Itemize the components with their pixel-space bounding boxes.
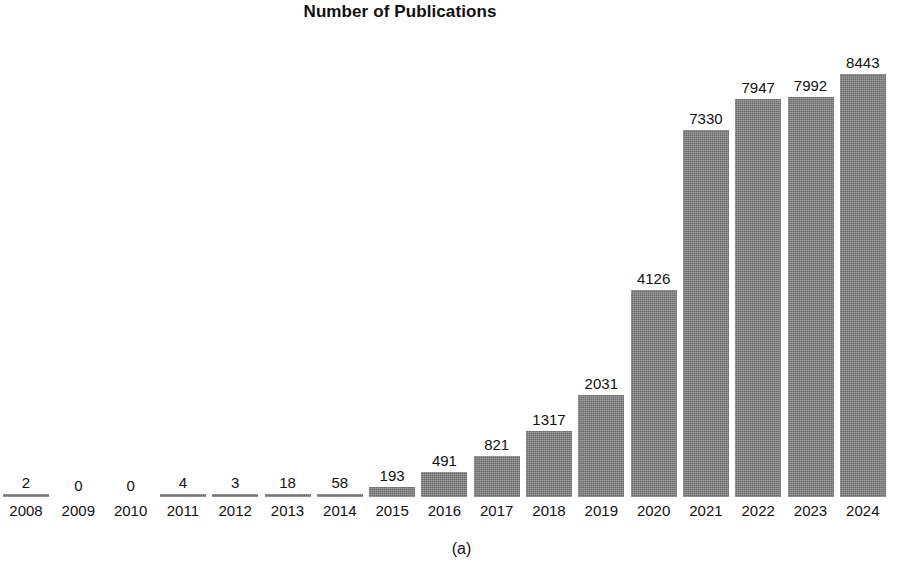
bar [683,130,729,497]
bar [840,74,886,497]
bar-value-label: 4 [157,474,209,491]
bar-group: 18 [262,0,314,500]
x-tick-label-2019: 2019 [575,502,627,519]
x-axis: 2008200920102011201220132014201520162017… [0,500,923,526]
bar-value-label: 1317 [523,411,575,428]
bar-value-label: 7947 [732,79,784,96]
bar-chart-plot-area: 2004318581934918211317203141267330794779… [0,0,923,500]
bar [212,494,258,497]
figure-caption: (a) [0,540,923,558]
bar-value-label: 821 [471,436,523,453]
bar [631,290,677,497]
x-tick-label-2021: 2021 [680,502,732,519]
bar-value-label: 0 [52,477,104,494]
bar [3,494,49,497]
figure-panel-a: Number of Publications 20043185819349182… [0,0,923,577]
x-tick-label-2011: 2011 [157,502,209,519]
bar-group: 821 [471,0,523,500]
bar-group: 193 [366,0,418,500]
bar [265,494,311,497]
bar-group: 4126 [628,0,680,500]
bar [160,494,206,497]
x-tick-label-2022: 2022 [732,502,784,519]
bar [578,395,624,497]
bar [526,431,572,497]
bar-value-label: 58 [314,474,366,491]
bar-group: 2031 [575,0,627,500]
bar [317,494,363,497]
bar-value-label: 193 [366,467,418,484]
x-tick-label-2020: 2020 [628,502,680,519]
bar-value-label: 2 [0,474,52,491]
bar-group: 7330 [680,0,732,500]
bar-group: 7947 [732,0,784,500]
bar-value-label: 7330 [680,110,732,127]
x-tick-label-2009: 2009 [52,502,104,519]
bar [369,487,415,497]
x-tick-label-2010: 2010 [105,502,157,519]
bar-value-label: 3 [209,474,261,491]
x-tick-label-2017: 2017 [471,502,523,519]
bar-value-label: 4126 [628,270,680,287]
bar-value-label: 0 [105,477,157,494]
x-tick-label-2023: 2023 [785,502,837,519]
x-tick-label-2016: 2016 [418,502,470,519]
x-tick-label-2015: 2015 [366,502,418,519]
bar-group: 7992 [785,0,837,500]
bar-group: 0 [105,0,157,500]
bar [474,456,520,497]
bar-value-label: 18 [262,474,314,491]
bar-group: 491 [418,0,470,500]
bar [421,472,467,497]
x-tick-label-2012: 2012 [209,502,261,519]
x-tick-label-2024: 2024 [837,502,889,519]
bar-value-label: 7992 [785,77,837,94]
bar-group: 4 [157,0,209,500]
bar-group: 58 [314,0,366,500]
x-tick-label-2014: 2014 [314,502,366,519]
bar-group: 0 [52,0,104,500]
bar-value-label: 8443 [837,54,889,71]
bar-value-label: 2031 [575,375,627,392]
bar-group: 8443 [837,0,889,500]
bar [788,97,834,497]
bar-group: 1317 [523,0,575,500]
bar [735,99,781,497]
x-tick-label-2008: 2008 [0,502,52,519]
x-tick-label-2018: 2018 [523,502,575,519]
bar-group: 3 [209,0,261,500]
bar-group: 2 [0,0,52,500]
bar-value-label: 491 [418,452,470,469]
x-tick-label-2013: 2013 [262,502,314,519]
